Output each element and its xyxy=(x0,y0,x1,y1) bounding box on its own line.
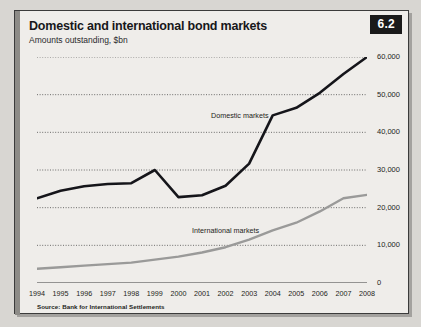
y-tick-label: 20,000 xyxy=(377,203,400,212)
series-label-international: International markets xyxy=(192,226,259,235)
y-tick-label: 0 xyxy=(377,278,381,287)
page-title: Domestic and international bond markets xyxy=(29,19,400,33)
x-tick-label: 1998 xyxy=(123,289,139,298)
series-label-domestic: Domestic markets xyxy=(211,111,269,120)
x-tick-label: 2007 xyxy=(335,289,351,298)
chart-plot-area xyxy=(37,57,367,283)
x-tick-label: 2006 xyxy=(312,289,328,298)
y-tick-label: 30,000 xyxy=(377,165,400,174)
x-tick-label: 1994 xyxy=(29,289,45,298)
x-tick-label: 2001 xyxy=(194,289,210,298)
line-chart-svg xyxy=(37,57,367,283)
y-tick-label: 10,000 xyxy=(377,240,400,249)
x-tick-label: 1996 xyxy=(76,289,92,298)
accent-bar xyxy=(15,11,20,315)
x-tick-label: 2003 xyxy=(241,289,257,298)
y-tick-label: 60,000 xyxy=(377,52,400,61)
x-tick-label: 2000 xyxy=(170,289,186,298)
source-note: Source: Bank for International Settlemen… xyxy=(37,303,165,310)
x-axis-labels: 1994199519961997199819992000200120022003… xyxy=(15,289,410,301)
series-line-domestic-markets xyxy=(37,57,367,198)
figure-number-badge: 6.2 xyxy=(370,15,402,34)
x-tick-label: 2008 xyxy=(359,289,375,298)
y-tick-label: 40,000 xyxy=(377,127,400,136)
x-tick-label: 1999 xyxy=(147,289,163,298)
x-tick-label: 2004 xyxy=(265,289,281,298)
x-tick-label: 1995 xyxy=(53,289,69,298)
x-tick-label: 2005 xyxy=(288,289,304,298)
x-tick-label: 1997 xyxy=(100,289,116,298)
x-tick-label: 2002 xyxy=(218,289,234,298)
y-tick-label: 50,000 xyxy=(377,90,400,99)
figure-panel: Domestic and international bond markets … xyxy=(14,10,409,314)
figure-header: Domestic and international bond markets … xyxy=(29,19,400,45)
chart-subtitle: Amounts outstanding, $bn xyxy=(29,35,400,45)
